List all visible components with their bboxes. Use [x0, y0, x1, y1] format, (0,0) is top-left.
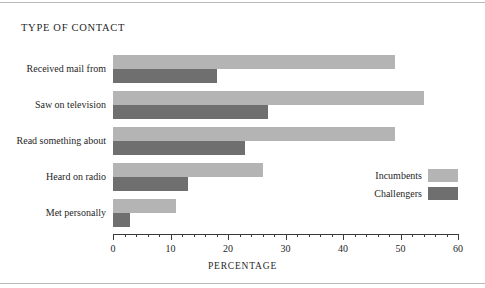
- x-tick-minor: [435, 234, 436, 237]
- x-tick-minor: [125, 234, 126, 237]
- x-tick-major: [228, 234, 229, 240]
- bar-incumbents-1: [113, 91, 424, 105]
- x-tick-minor: [378, 234, 379, 237]
- chart-title: TYPE OF CONTACT: [21, 22, 125, 33]
- bar-incumbents-0: [113, 55, 395, 69]
- x-tick-minor: [424, 234, 425, 237]
- x-tick-minor: [389, 234, 390, 237]
- x-tick-label: 20: [208, 243, 248, 254]
- chart-legend: IncumbentsChallengers: [360, 168, 470, 204]
- x-tick-label: 50: [381, 243, 421, 254]
- x-tick-minor: [309, 234, 310, 237]
- legend-label: Challengers: [360, 188, 422, 199]
- x-tick-minor: [182, 234, 183, 237]
- x-tick-minor: [447, 234, 448, 237]
- chart-figure: TYPE OF CONTACT PERCENTAGE IncumbentsCha…: [0, 0, 485, 288]
- x-tick-minor: [366, 234, 367, 237]
- legend-item[interactable]: Incumbents: [360, 168, 470, 186]
- x-tick-label: 60: [438, 243, 478, 254]
- x-tick-minor: [274, 234, 275, 237]
- frame-bottom-rule: [0, 283, 485, 284]
- x-tick-minor: [332, 234, 333, 237]
- x-tick-minor: [412, 234, 413, 237]
- x-tick-label: 30: [266, 243, 306, 254]
- x-tick-minor: [136, 234, 137, 237]
- category-label: Saw on television: [0, 99, 106, 110]
- x-tick-label: 40: [323, 243, 363, 254]
- x-tick-minor: [297, 234, 298, 237]
- category-label: Read something about: [0, 135, 106, 146]
- plot-area: [113, 47, 458, 234]
- x-tick-minor: [320, 234, 321, 237]
- x-tick-major: [113, 234, 114, 240]
- x-tick-minor: [240, 234, 241, 237]
- x-tick-minor: [217, 234, 218, 237]
- x-tick-minor: [159, 234, 160, 237]
- x-tick-label: 10: [151, 243, 191, 254]
- bar-group: [113, 91, 458, 119]
- bar-challengers-2: [113, 141, 245, 155]
- x-tick-major: [401, 234, 402, 240]
- x-tick-major: [286, 234, 287, 240]
- bar-incumbents-2: [113, 127, 395, 141]
- bar-group: [113, 55, 458, 83]
- x-tick-label: 0: [93, 243, 133, 254]
- x-tick-minor: [263, 234, 264, 237]
- x-tick-major: [458, 234, 459, 240]
- legend-label: Incumbents: [360, 170, 422, 181]
- x-tick-minor: [355, 234, 356, 237]
- bar-incumbents-4: [113, 199, 176, 213]
- x-tick-minor: [251, 234, 252, 237]
- category-label: Heard on radio: [0, 171, 106, 182]
- x-tick-major: [171, 234, 172, 240]
- frame-top-rule: [0, 2, 485, 3]
- x-tick-minor: [205, 234, 206, 237]
- x-axis-title: PERCENTAGE: [0, 261, 485, 271]
- x-tick-minor: [194, 234, 195, 237]
- bar-challengers-3: [113, 177, 188, 191]
- bar-group: [113, 127, 458, 155]
- bar-challengers-1: [113, 105, 268, 119]
- legend-swatch: [428, 169, 458, 182]
- category-label: Met personally: [0, 207, 106, 218]
- legend-item[interactable]: Challengers: [360, 186, 470, 204]
- bar-challengers-4: [113, 213, 130, 227]
- x-tick-minor: [148, 234, 149, 237]
- bar-challengers-0: [113, 69, 217, 83]
- x-tick-major: [343, 234, 344, 240]
- bar-incumbents-3: [113, 163, 263, 177]
- category-label: Received mail from: [0, 63, 106, 74]
- legend-swatch: [428, 187, 458, 200]
